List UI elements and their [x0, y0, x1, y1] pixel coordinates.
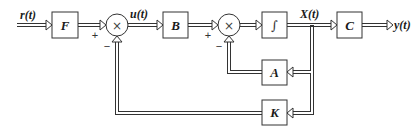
summing-junction-1: × + −: [92, 14, 128, 52]
sum1-minus-sign: −: [104, 40, 110, 52]
signal-label-output: y(t): [392, 18, 411, 32]
integrator-symbol: ∫: [271, 18, 278, 33]
block-integrator: ∫: [262, 12, 287, 38]
arrow-into-C: [331, 20, 337, 30]
signal-label-input: r(t): [20, 8, 36, 22]
block-K-label: K: [269, 105, 280, 120]
arrow-into-sum1-bottom: [112, 36, 122, 42]
block-C-label: C: [345, 18, 354, 33]
arrow-into-sum2: [212, 20, 218, 30]
block-F-label: F: [60, 18, 70, 33]
summing-junction-2: × + −: [205, 14, 240, 52]
signal-label-state: X(t): [299, 7, 319, 21]
block-C: C: [337, 12, 362, 38]
arrow-into-A: [287, 67, 293, 77]
arrow-into-F: [46, 20, 52, 30]
block-K: K: [262, 100, 287, 125]
sum1-plus-sign: +: [92, 29, 98, 41]
block-A: A: [262, 60, 287, 85]
arrow-into-sum2-bottom: [224, 36, 234, 42]
block-A-label: A: [269, 65, 279, 80]
arrow-into-B: [157, 20, 163, 30]
block-diagram: F B ∫ C A K × + − × + − r(t) u(t) X(t) y…: [0, 0, 420, 137]
block-B-label: B: [170, 18, 180, 33]
block-F: F: [52, 12, 78, 38]
arrow-into-integrator: [256, 20, 262, 30]
sum2-symbol: ×: [224, 19, 234, 33]
sum1-symbol: ×: [112, 19, 122, 33]
arrow-into-sum1: [100, 20, 106, 30]
arrow-into-K: [287, 108, 293, 118]
arrow-output: [387, 20, 393, 30]
block-B: B: [163, 12, 188, 38]
sum2-plus-sign: +: [205, 29, 211, 41]
signal-label-control: u(t): [130, 7, 148, 21]
sum2-minus-sign: −: [216, 40, 222, 52]
